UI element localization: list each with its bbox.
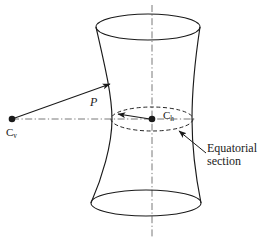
label-viewpoint-subscript: v xyxy=(13,132,17,140)
viewpoint-dot xyxy=(9,116,16,123)
label-center: Ch xyxy=(163,109,174,123)
center-dot xyxy=(149,116,156,123)
hyperboloid-diagram xyxy=(0,0,275,240)
label-equatorial-line2: section xyxy=(207,154,241,168)
label-point-p: P xyxy=(90,96,97,109)
label-equatorial-section: Equatorialsection xyxy=(207,142,257,169)
label-viewpoint: Cv xyxy=(6,126,17,140)
label-equatorial-line1: Equatorial xyxy=(207,141,257,155)
canvas-background xyxy=(0,0,275,240)
label-center-subscript: h xyxy=(170,115,174,123)
